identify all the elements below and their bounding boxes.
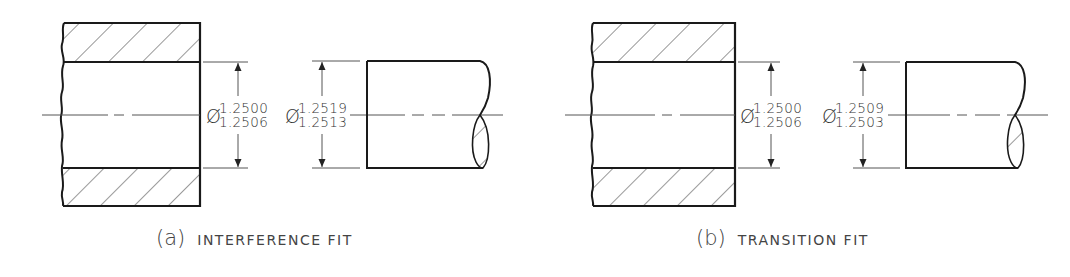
panel-a-tag: (a) — [156, 226, 185, 250]
panel-b-caption: (b)TRANSITION FIT — [696, 226, 869, 250]
shaft-lower-limit: 1.2503 — [835, 116, 884, 130]
panel-b-tag: (b) — [696, 226, 726, 250]
panel-a-caption: (a)INTERFERENCE FIT — [156, 226, 353, 250]
hole-lower-limit: 1.2506 — [753, 116, 802, 130]
panel-b-caption-text: TRANSITION FIT — [738, 232, 869, 248]
shaft-lower-limit: 1.2513 — [298, 116, 347, 130]
hole-lower-limit: 1.2506 — [219, 116, 268, 130]
panel-a-caption-text: INTERFERENCE FIT — [197, 232, 352, 248]
